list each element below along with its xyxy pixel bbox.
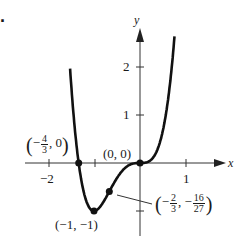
tick-label-y1: 1 xyxy=(123,108,130,121)
point-zero-neg xyxy=(75,160,82,167)
x-axis-label: x xyxy=(228,157,233,169)
label-minimum: (−1, −1) xyxy=(55,218,98,231)
tick-label-y2: 2 xyxy=(123,60,130,73)
leader-line xyxy=(117,195,152,204)
label-origin: (0, 0) xyxy=(103,147,131,160)
tick-label-neg2: −2 xyxy=(40,172,54,185)
point-origin xyxy=(137,160,144,167)
y-axis-label: y xyxy=(134,14,139,26)
point-inflection xyxy=(106,188,113,195)
label-inflection: (−23, −1627) xyxy=(155,193,213,214)
tick-label-1: 1 xyxy=(183,172,190,185)
point-minimum xyxy=(91,208,98,215)
x-axis-arrow-icon xyxy=(214,159,226,167)
y-axis-arrow-icon xyxy=(136,28,144,42)
label-zero-neg: (−43, 0) xyxy=(26,134,69,155)
